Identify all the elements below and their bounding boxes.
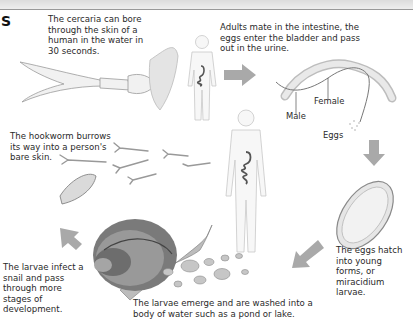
label-eggs: Eggs (323, 130, 343, 140)
caption-line: human in the water in (48, 35, 143, 46)
human-figure-1 (188, 36, 216, 121)
arrow-down-left-icon (292, 240, 324, 268)
caption-emerge: The larvae emerge and are washed into a … (133, 298, 313, 319)
arrow-up-left-icon (60, 228, 82, 250)
caption-line: through the skin of a (48, 25, 143, 36)
caption-line: Adults mate in the intestine, the (220, 22, 360, 33)
caption-line: larvae. (336, 287, 402, 298)
caption-line: through more (3, 283, 84, 294)
caption-line: eggs enter the bladder and pass (220, 33, 360, 44)
caption-line: into young (336, 256, 402, 267)
caption-line: bare skin. (10, 152, 111, 163)
snail-illustration (93, 219, 212, 300)
caption-line: its way into a person's (10, 142, 111, 153)
caption-hatch: The eggs hatch into young forms, or mira… (336, 245, 402, 298)
caption-line: snail and pass (3, 273, 84, 284)
caption-line: body of water such as a pond or lake. (133, 309, 313, 320)
label-male: Male (286, 111, 306, 121)
arrow-down-icon (363, 140, 385, 166)
arrow-right-icon (224, 64, 256, 86)
larva-shed-skin-illustration (60, 174, 96, 204)
caption-line: The eggs hatch (336, 245, 402, 256)
cercaria-illustration (20, 48, 178, 110)
label-female: Female (314, 96, 344, 106)
caption-line: The cercaria can bore (48, 14, 143, 25)
caption-line: out in the urine. (220, 43, 360, 54)
caption-line: 30 seconds. (48, 46, 143, 57)
caption-line: miracidium (336, 277, 402, 288)
caption-hookworm: The hookworm burrows its way into a pers… (10, 131, 111, 163)
caption-snail: The larvae infect a snail and pass throu… (3, 262, 84, 315)
caption-line: The larvae emerge and are washed into a (133, 298, 313, 309)
eggs-speckle-icon (349, 120, 359, 130)
caption-adults: Adults mate in the intestine, the eggs e… (220, 22, 360, 54)
caption-line: The hookworm burrows (10, 131, 111, 142)
caption-cercaria: The cercaria can bore through the skin o… (48, 14, 143, 56)
caption-line: stages of (3, 294, 84, 305)
caption-line: development. (3, 304, 84, 315)
caption-line: The larvae infect a (3, 262, 84, 273)
caption-line: forms, or (336, 266, 402, 277)
